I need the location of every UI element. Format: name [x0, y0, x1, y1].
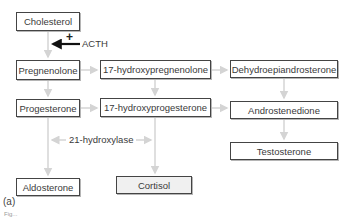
- figure-caption-cutoff: Fig...: [4, 211, 17, 217]
- node-pregnenolone: Pregnenolone: [16, 60, 80, 80]
- enzyme-label-21-hydroxylase: 21-hydroxylase: [69, 134, 133, 145]
- node-cortisol: Cortisol: [116, 176, 192, 194]
- node-dehydroepiandrosterone: Dehydroepiandrosterone: [230, 60, 338, 78]
- node-aldosterone: Aldosterone: [16, 178, 80, 196]
- node-17-hydroxypregnenolone: 17-hydroxypregnenolone: [100, 60, 211, 79]
- node-cholesterol: Cholesterol: [16, 12, 80, 31]
- acth-label: ACTH: [82, 38, 108, 49]
- acth-plus-sign: +: [66, 30, 73, 44]
- node-androstenedione: Androstenedione: [230, 101, 338, 119]
- node-17-hydroxyprogesterone: 17-hydroxyprogesterone: [100, 98, 211, 117]
- node-testosterone: Testosterone: [230, 142, 338, 160]
- node-progesterone: Progesterone: [16, 99, 80, 117]
- panel-label: (a): [3, 196, 15, 207]
